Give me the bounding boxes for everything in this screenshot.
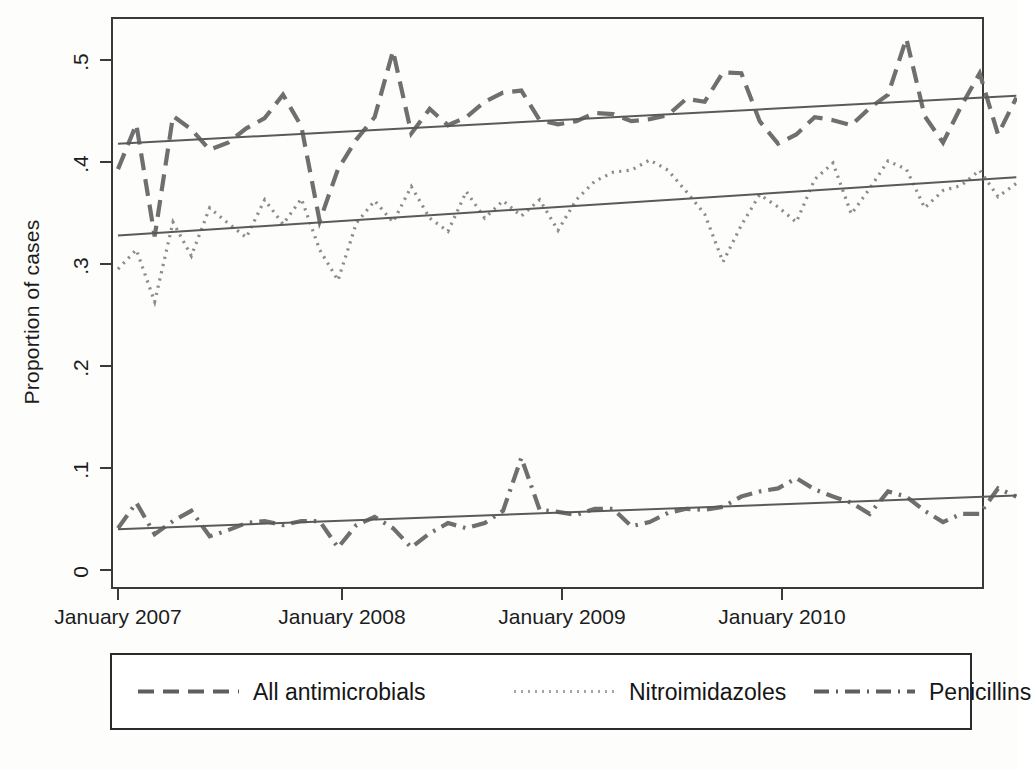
- trend-lines-layer: [118, 96, 1016, 530]
- legend-entry-nitroimidazoles[interactable]: Nitroimidazoles: [512, 678, 786, 705]
- legend: All antimicrobials Nitroimidazoles Penic…: [110, 653, 972, 730]
- legend-label-all-antimicrobials: All antimicrobials: [253, 678, 426, 705]
- series-line-nitroimidazoles: [118, 160, 1016, 302]
- legend-swatch-dotted-icon: [512, 685, 617, 699]
- legend-swatch-dashed-icon: [136, 685, 241, 699]
- y-tick-marks: [100, 60, 112, 570]
- trend-line-nitroimidazoles: [118, 177, 1016, 235]
- legend-entry-penicillins[interactable]: Penicillins: [812, 678, 1031, 705]
- legend-label-nitroimidazoles: Nitroimidazoles: [629, 678, 786, 705]
- trend-line-all-antimicrobials: [118, 96, 1016, 144]
- plot-area: [0, 0, 1017, 660]
- x-tick-marks: [118, 588, 782, 600]
- series-line-penicillins: [118, 458, 1016, 548]
- series-layer: [118, 39, 1016, 548]
- legend-label-penicillins: Penicillins: [929, 678, 1031, 705]
- trend-line-penicillins: [118, 496, 1016, 530]
- legend-swatch-dashdot-icon: [812, 685, 917, 699]
- legend-entry-all-antimicrobials[interactable]: All antimicrobials: [136, 678, 426, 705]
